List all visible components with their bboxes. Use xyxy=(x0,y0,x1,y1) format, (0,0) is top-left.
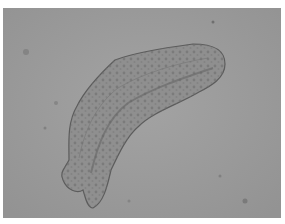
micrograph xyxy=(3,8,281,218)
micrograph-frame xyxy=(3,8,281,218)
